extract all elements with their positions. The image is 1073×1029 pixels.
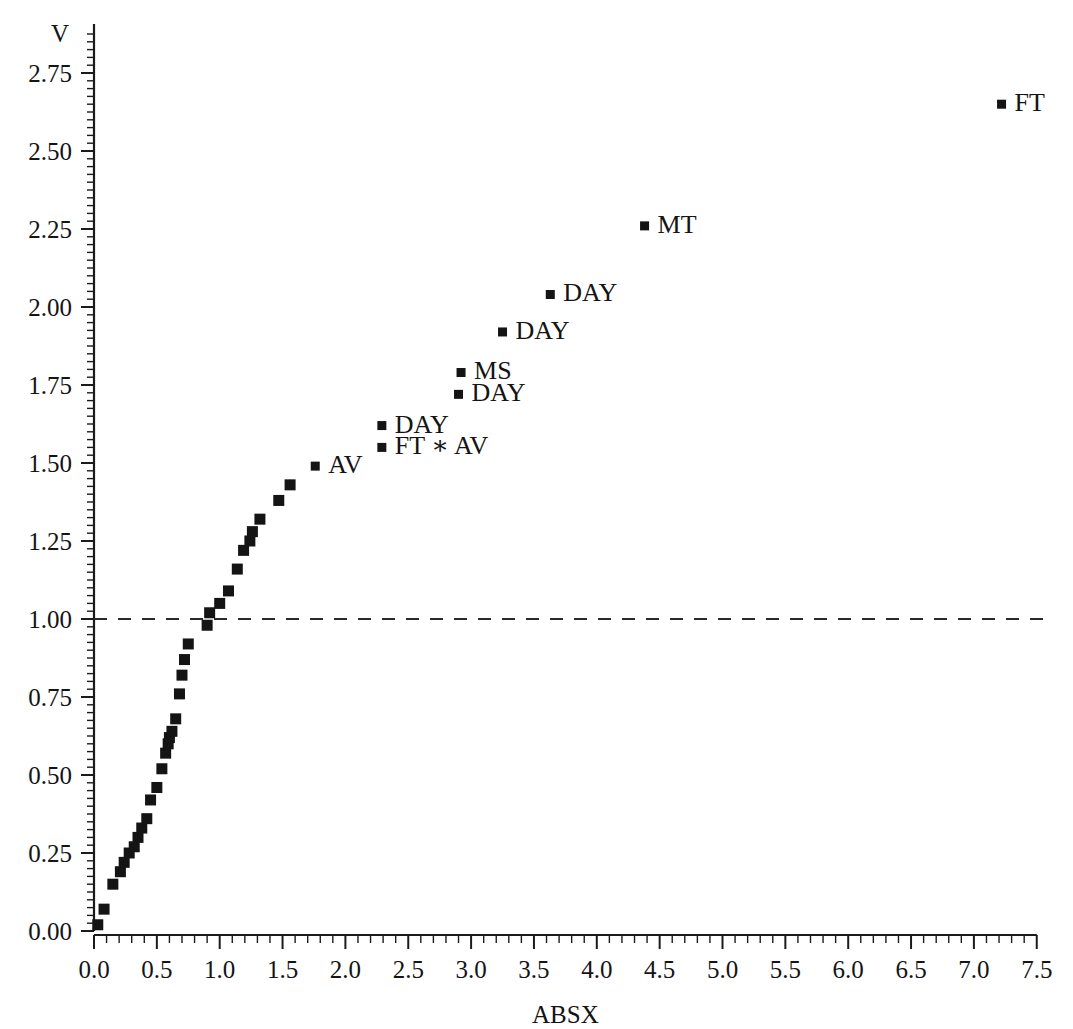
data-point-marker [145,794,156,805]
data-point-marker [204,607,215,618]
x-tick-label: 4.0 [581,956,612,983]
x-tick-label: 1.0 [204,956,235,983]
x-tick-label: 7.0 [958,956,989,983]
data-point-marker [107,879,118,890]
data-point-markers-group [92,100,1006,931]
x-tick-label: 0.0 [78,956,109,983]
x-tick-label: 2.5 [393,956,424,983]
data-point-marker [119,857,130,868]
data-point-marker [377,443,386,452]
data-point-label: FT ∗ AV [395,431,489,460]
data-point-marker [166,726,177,737]
y-tick-label: 2.75 [28,60,72,87]
data-point-label: DAY [516,316,570,345]
data-point-marker [254,514,265,525]
data-point-marker [640,221,649,230]
scatter-plot-figure: 0.000.250.500.751.001.251.501.752.002.25… [0,0,1073,1029]
data-point-label: DAY [563,278,617,307]
y-tick-label: 0.25 [28,840,72,867]
data-point-marker [238,545,249,556]
y-axis-title: V [51,20,69,47]
data-point-marker [202,620,213,631]
data-point-marker [285,479,296,490]
data-point-marker [214,598,225,609]
y-axis-tick-labels: 0.000.250.500.751.001.251.501.752.002.25… [28,60,72,945]
x-tick-label: 2.0 [330,956,361,983]
data-point-labels-group: AVDAYFT ∗ AVDAYMSDAYDAYMTFT [328,88,1045,479]
y-tick-label: 2.50 [28,138,72,165]
data-point-marker [546,290,555,299]
data-point-marker [99,904,110,915]
x-tick-label: 0.5 [141,956,172,983]
data-point-marker [179,654,190,665]
data-point-marker [151,782,162,793]
data-point-marker [244,536,255,547]
y-tick-label: 0.75 [28,684,72,711]
data-point-marker [498,327,507,336]
x-axis-title: ABSX [532,1001,599,1028]
data-point-label: FT [1015,88,1045,117]
x-axis-group: 0.00.51.01.52.02.53.03.54.04.55.05.56.06… [78,935,1052,983]
x-axis-major-ticks [94,935,1037,949]
x-axis-tick-labels: 0.00.51.01.52.02.53.03.54.04.55.05.56.06… [78,956,1052,983]
data-point-label: AV [328,450,362,479]
data-point-marker [183,638,194,649]
y-tick-label: 1.00 [28,606,72,633]
data-point-marker [136,823,147,834]
x-tick-label: 3.5 [518,956,549,983]
y-tick-label: 1.25 [28,528,72,555]
y-tick-label: 2.25 [28,216,72,243]
data-point-marker [457,368,466,377]
x-tick-label: 6.5 [895,956,926,983]
data-point-marker [176,670,187,681]
data-point-marker [132,832,143,843]
data-point-marker [247,526,258,537]
data-point-marker [232,564,243,575]
data-point-label: MT [658,210,697,239]
data-point-marker [223,585,234,596]
y-tick-label: 0.00 [28,918,72,945]
x-tick-label: 6.0 [833,956,864,983]
y-tick-label: 1.75 [28,372,72,399]
x-tick-label: 4.5 [644,956,675,983]
data-point-marker [174,688,185,699]
x-tick-label: 5.5 [770,956,801,983]
data-point-label: MS [474,356,512,385]
data-point-marker [273,495,284,506]
x-tick-label: 1.5 [267,956,298,983]
y-tick-label: 2.00 [28,294,72,321]
x-tick-label: 5.0 [707,956,738,983]
chart-canvas: 0.000.250.500.751.001.251.501.752.002.25… [0,0,1073,1029]
y-tick-label: 1.50 [28,450,72,477]
x-tick-label: 7.5 [1021,956,1052,983]
x-axis-minor-ticks [107,935,1025,943]
data-point-marker [454,390,463,399]
y-axis-group: 0.000.250.500.751.001.251.501.752.002.25… [28,24,94,945]
x-tick-label: 3.0 [455,956,486,983]
data-point-marker [997,100,1006,109]
data-point-marker [170,713,181,724]
data-point-marker [141,813,152,824]
data-point-marker [92,919,103,930]
y-tick-label: 0.50 [28,762,72,789]
data-point-marker [156,763,167,774]
data-point-marker [129,841,140,852]
data-point-marker [311,462,320,471]
data-point-marker [115,866,126,877]
data-point-marker [377,421,386,430]
data-point-marker [160,748,171,759]
